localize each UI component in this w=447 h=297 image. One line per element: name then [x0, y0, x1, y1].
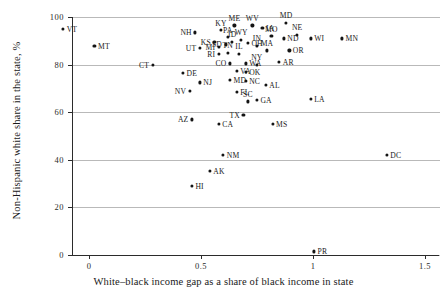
y-tick-label: 20	[30, 202, 64, 212]
gridline	[73, 160, 440, 161]
data-point-label: IL	[235, 42, 243, 51]
data-point	[198, 46, 201, 49]
data-point	[190, 118, 193, 121]
data-point-label: TN	[222, 41, 233, 50]
data-point	[251, 24, 254, 27]
data-point	[246, 100, 249, 103]
data-point-label: SC	[243, 90, 253, 99]
data-point	[226, 51, 229, 54]
data-point-label: LA	[314, 95, 325, 104]
data-point-label: NM	[227, 151, 240, 160]
data-point	[265, 49, 268, 52]
data-point-label: VT	[67, 24, 78, 33]
data-point-label: NE	[292, 23, 303, 32]
data-point-label: OR	[293, 46, 304, 55]
data-point-label: UT	[186, 43, 197, 52]
data-point	[278, 61, 281, 64]
data-point	[288, 49, 291, 52]
data-point	[309, 37, 312, 40]
plot-area: VTMTCTNHKYMEWVIAMDPAMONENDWIMNKSSDIDWYOH…	[72, 17, 439, 255]
x-tick-label: 1.5	[419, 261, 431, 271]
data-point-label: OK	[249, 67, 260, 76]
y-tick-label: 0	[30, 250, 64, 260]
data-point-label: NC	[249, 77, 260, 86]
data-point-label: HI	[195, 181, 203, 190]
data-point	[312, 250, 315, 253]
x-axis-title: White–black income gap as a share of bla…	[0, 276, 447, 287]
data-point	[264, 83, 267, 86]
data-point-label: MA	[261, 39, 274, 48]
data-point	[385, 153, 388, 156]
data-point-label: CT	[139, 60, 149, 69]
data-point-label: AL	[269, 80, 280, 89]
data-point	[190, 184, 193, 187]
data-point-label: MS	[276, 120, 287, 129]
gridline	[73, 112, 440, 113]
data-point-label: AR	[283, 58, 294, 67]
data-point-label: MO	[265, 25, 278, 34]
y-tick-label: 80	[30, 60, 64, 70]
y-axis-title: Non-Hispanic white share in the state, %	[11, 11, 22, 251]
data-point-label: NV	[175, 86, 186, 95]
data-point	[194, 31, 197, 34]
data-point-label: MD	[280, 11, 293, 20]
data-point-label: NH	[180, 28, 191, 37]
x-tick-mark	[425, 255, 426, 259]
data-point	[282, 37, 285, 40]
data-point	[235, 69, 238, 72]
data-point	[217, 123, 220, 126]
data-point	[255, 99, 258, 102]
data-point-label: TX	[229, 110, 240, 119]
data-point	[309, 98, 312, 101]
data-point	[340, 37, 343, 40]
y-tick-label: 60	[30, 107, 64, 117]
data-point-label: WI	[314, 34, 324, 43]
data-point-label: NY	[251, 53, 262, 62]
x-tick-label: 0.5	[195, 261, 207, 271]
data-point	[181, 71, 184, 74]
x-tick-mark	[89, 255, 90, 259]
data-point	[261, 26, 264, 29]
data-point	[242, 113, 245, 116]
data-point-label: MN	[346, 34, 359, 43]
data-point	[244, 80, 247, 83]
data-point	[235, 90, 238, 93]
data-point	[188, 89, 191, 92]
data-point	[233, 24, 236, 27]
data-point-label: NJ	[203, 78, 212, 87]
data-point-label: ND	[287, 34, 298, 43]
gridline	[73, 207, 440, 208]
data-point	[246, 42, 249, 45]
data-point	[93, 44, 96, 47]
x-tick-mark	[201, 255, 202, 259]
data-point	[270, 34, 273, 37]
x-tick-mark	[313, 255, 314, 259]
data-point	[222, 153, 225, 156]
data-point-label: WY	[235, 28, 248, 37]
data-point	[284, 21, 287, 24]
y-tick-label: 100	[30, 12, 64, 22]
x-tick-label: 0	[87, 261, 92, 271]
x-tick-label: 1	[311, 261, 316, 271]
data-point	[198, 81, 201, 84]
data-point	[151, 63, 154, 66]
data-point-label: CO	[216, 59, 227, 68]
data-point	[217, 52, 220, 55]
y-tick-label: 40	[30, 155, 64, 165]
data-point-label: CA	[222, 120, 233, 129]
data-point	[62, 27, 65, 30]
data-point-label: WV	[246, 14, 259, 23]
data-point-label: DE	[186, 68, 197, 77]
x-axis-line	[72, 255, 439, 256]
data-point-label: MT	[98, 41, 110, 50]
data-point-label: GA	[260, 96, 271, 105]
data-point	[240, 38, 243, 41]
data-point-label: AK	[213, 166, 224, 175]
data-point	[228, 78, 231, 81]
data-point-label: DC	[390, 151, 401, 160]
data-point	[237, 52, 240, 55]
data-point-label: AZ	[178, 115, 189, 124]
data-point-label: ME	[229, 14, 241, 23]
scatter-plot-figure: 020406080100 VTMTCTNHKYMEWVIAMDPAMONENDW…	[0, 0, 447, 297]
data-point	[208, 169, 211, 172]
